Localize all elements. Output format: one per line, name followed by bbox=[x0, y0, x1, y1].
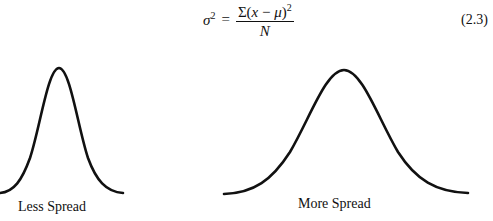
less-spread-label: Less Spread bbox=[18, 199, 86, 215]
more-spread-label: More Spread bbox=[298, 196, 371, 212]
distribution-curves bbox=[0, 0, 493, 221]
more-spread-curve bbox=[224, 70, 468, 194]
less-spread-curve bbox=[0, 68, 123, 193]
